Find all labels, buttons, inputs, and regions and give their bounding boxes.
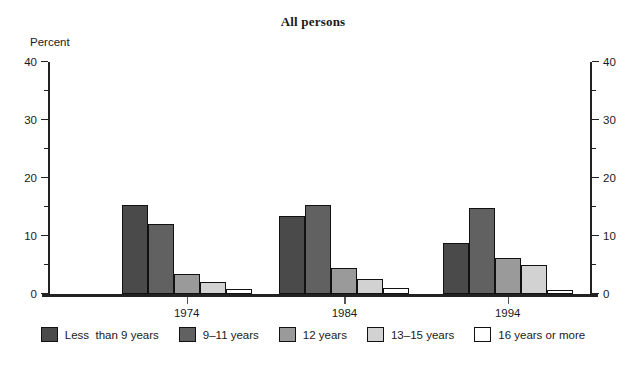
bar-1974-series-2 — [174, 274, 200, 294]
bar-group-1984 — [279, 62, 409, 294]
bar-1984-series-0 — [279, 216, 305, 294]
plot-area: 001010202030304040 197419841994 — [48, 62, 592, 294]
y-tick-label-left-0: 0 — [7, 289, 37, 301]
legend-label-1: 9–11 years — [203, 329, 259, 341]
bar-1994-series-3 — [521, 265, 547, 294]
y-tick-left-0 — [41, 293, 48, 295]
x-tick-1984 — [344, 297, 346, 304]
y-tick-right-0 — [592, 293, 599, 295]
y-tick-label-left-10: 10 — [7, 231, 37, 243]
y-tick-label-right-0: 0 — [603, 289, 626, 301]
bar-1974-series-1 — [148, 224, 174, 294]
y-tick-label-left-20: 20 — [7, 173, 37, 185]
y-tick-left-15 — [44, 206, 48, 208]
legend-label-3: 13–15 years — [391, 329, 454, 341]
x-tick-1994 — [508, 297, 510, 304]
y-tick-right-35 — [592, 90, 596, 92]
bar-1994-series-4 — [547, 290, 573, 294]
x-axis-line — [42, 294, 598, 297]
y-axis-right — [590, 62, 592, 295]
legend-label-0: Less than 9 years — [65, 329, 159, 341]
y-tick-label-left-30: 30 — [7, 115, 37, 127]
legend-item-1[interactable]: 9–11 years — [179, 327, 259, 342]
legend-label-4: 16 years or more — [498, 329, 585, 341]
y-axis-left — [48, 62, 50, 295]
bar-1994-series-0 — [443, 243, 469, 294]
y-tick-right-25 — [592, 148, 596, 150]
y-tick-right-10 — [592, 235, 599, 237]
y-tick-right-15 — [592, 206, 596, 208]
y-tick-label-right-40: 40 — [603, 57, 626, 69]
y-tick-left-10 — [41, 235, 48, 237]
y-tick-label-right-30: 30 — [603, 115, 626, 127]
bar-1984-series-3 — [357, 279, 383, 294]
y-tick-left-25 — [44, 148, 48, 150]
x-axis-label-1994: 1994 — [478, 307, 538, 319]
bar-group-1994 — [443, 62, 573, 294]
y-tick-label-right-10: 10 — [603, 231, 626, 243]
x-axis-label-1984: 1984 — [314, 307, 374, 319]
y-tick-right-5 — [592, 264, 596, 266]
bar-1974-series-3 — [200, 282, 226, 294]
y-tick-left-40 — [41, 61, 48, 63]
legend-swatch-2 — [279, 327, 296, 342]
y-tick-right-20 — [592, 177, 599, 179]
y-tick-left-5 — [44, 264, 48, 266]
y-tick-label-right-20: 20 — [603, 173, 626, 185]
legend-swatch-3 — [367, 327, 384, 342]
bar-1984-series-2 — [331, 268, 357, 294]
y-tick-left-30 — [41, 119, 48, 121]
bar-1974-series-0 — [122, 205, 148, 294]
legend-swatch-1 — [179, 327, 196, 342]
bar-chart-figure: All persons Percent 001010202030304040 1… — [0, 0, 626, 372]
legend-swatch-4 — [474, 327, 491, 342]
y-tick-left-20 — [41, 177, 48, 179]
legend-swatch-0 — [41, 327, 58, 342]
bar-1984-series-4 — [383, 288, 409, 294]
y-tick-label-left-40: 40 — [7, 57, 37, 69]
x-tick-1974 — [187, 297, 189, 304]
legend-item-3[interactable]: 13–15 years — [367, 327, 454, 342]
y-tick-right-40 — [592, 61, 599, 63]
y-axis-unit-label: Percent — [30, 36, 70, 48]
chart-legend: Less than 9 years9–11 years12 years13–15… — [0, 327, 626, 342]
bar-1994-series-2 — [495, 258, 521, 294]
y-tick-right-30 — [592, 119, 599, 121]
x-axis-label-1974: 1974 — [157, 307, 217, 319]
bar-1974-series-4 — [226, 289, 252, 294]
legend-item-0[interactable]: Less than 9 years — [41, 327, 159, 342]
legend-item-2[interactable]: 12 years — [279, 327, 347, 342]
y-tick-left-35 — [44, 90, 48, 92]
legend-item-4[interactable]: 16 years or more — [474, 327, 585, 342]
bar-group-1974 — [122, 62, 252, 294]
bar-1994-series-1 — [469, 208, 495, 294]
bar-1984-series-1 — [305, 205, 331, 294]
legend-label-2: 12 years — [303, 329, 347, 341]
chart-title: All persons — [0, 14, 626, 30]
